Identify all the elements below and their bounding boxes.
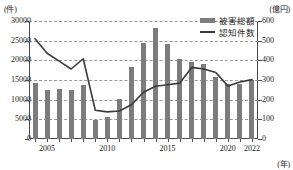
x-axis-tick-mark (216, 139, 217, 142)
x-axis-tick-mark (95, 139, 96, 142)
chart-container: (件) (億円) (年) 050001000015000200002500030… (0, 0, 293, 170)
legend-label-recognized-cases: 認知件数 (219, 26, 255, 38)
x-axis-tick-label: 2022 (237, 144, 267, 153)
chart-legend: 被害総額 認知件数 (200, 14, 272, 38)
x-axis-tick-label: 2010 (92, 144, 122, 153)
x-axis-tick-mark (47, 139, 48, 142)
x-axis-tick-mark (252, 139, 253, 142)
x-axis-tick-mark (180, 139, 181, 142)
x-axis-tick-mark (192, 139, 193, 142)
x-axis-tick-mark (83, 139, 84, 142)
x-axis-tick-mark (71, 139, 72, 142)
x-axis-tick-mark (228, 139, 229, 142)
x-axis-tick-label: 2015 (153, 144, 183, 153)
x-axis-tick-mark (144, 139, 145, 142)
x-axis-tick-mark (204, 139, 205, 142)
x-axis-tick-label: 2005 (32, 144, 62, 153)
x-axis-tick-mark (59, 139, 60, 142)
line-path (35, 39, 252, 112)
legend-item-damage-total: 被害総額 (200, 14, 272, 26)
legend-label-damage-total: 被害総額 (219, 14, 255, 26)
legend-bar-swatch-icon (200, 18, 215, 23)
x-axis-tick-mark (131, 139, 132, 142)
x-axis-tick-mark (156, 139, 157, 142)
x-axis-tick-mark (168, 139, 169, 142)
x-axis-tick-mark (119, 139, 120, 142)
x-axis-tick-mark (240, 139, 241, 142)
legend-line-swatch-icon (200, 31, 215, 33)
x-axis-tick-mark (35, 139, 36, 142)
legend-item-recognized-cases: 認知件数 (200, 26, 272, 38)
x-axis-tick-mark (107, 139, 108, 142)
